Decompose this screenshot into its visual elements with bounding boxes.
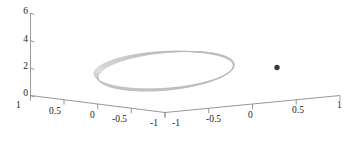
endpoint-marker-group bbox=[274, 65, 279, 70]
z-tick-4 bbox=[31, 41, 35, 43]
z-tick-label-4: 4 bbox=[18, 35, 28, 45]
helix-curve bbox=[94, 51, 234, 91]
axis-lines bbox=[31, 13, 341, 113]
x-tick-label-1: 1 bbox=[16, 101, 21, 111]
z-tick-label-6: 6 bbox=[18, 7, 28, 17]
figure-canvas: 6 4 2 0 1 0.5 0 -0.5 -1 -1 -0.5 0 0.5 1 bbox=[0, 0, 351, 150]
x-tick-label-m0p5: -0.5 bbox=[112, 115, 127, 125]
z-tick-label-2: 2 bbox=[18, 62, 28, 72]
endpoint-marker-icon bbox=[274, 65, 279, 70]
x-tick-label-0: 0 bbox=[90, 111, 95, 121]
helix-curve-group bbox=[94, 51, 234, 91]
y-tick-label-m1: -1 bbox=[172, 119, 180, 129]
y-tick-label-m0p5: -0.5 bbox=[206, 115, 221, 125]
x-tick-label-m1: -1 bbox=[150, 119, 158, 129]
z-tick-2 bbox=[31, 68, 35, 70]
z-tick-label-0: 0 bbox=[18, 89, 28, 99]
z-axis-ticks bbox=[31, 13, 35, 97]
z-tick-6 bbox=[31, 13, 35, 15]
x-tick-label-0p5: 0.5 bbox=[49, 107, 61, 117]
y-tick-label-1: 1 bbox=[337, 101, 342, 111]
y-tick-label-0p5: 0.5 bbox=[292, 106, 304, 116]
y-tick-label-0: 0 bbox=[248, 111, 253, 121]
